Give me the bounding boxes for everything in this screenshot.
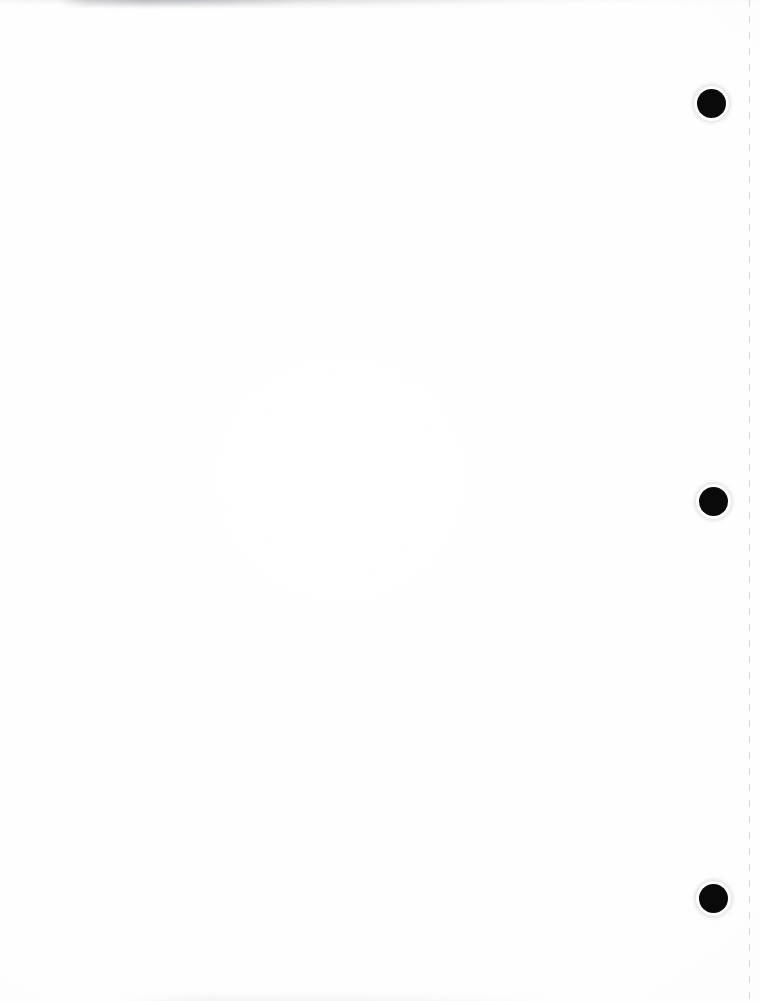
punch-mark-top: [697, 89, 726, 118]
top-edge-scan-artifact: [58, 0, 528, 9]
bottom-edge-scan-artifact: [120, 991, 550, 1001]
punch-mark-middle: [699, 487, 728, 516]
paper-noise-texture: [0, 0, 760, 1001]
right-margin-dashed-line: [749, 0, 750, 1001]
page-caption: Blank scanned document page: [0, 0, 1, 1]
paper-noise-texture-secondary: [0, 0, 760, 1001]
punch-mark-bottom: [699, 884, 728, 913]
top-edge-scan-artifact-wide: [0, 0, 760, 5]
scanned-page: Blank scanned document page: [0, 0, 760, 1001]
